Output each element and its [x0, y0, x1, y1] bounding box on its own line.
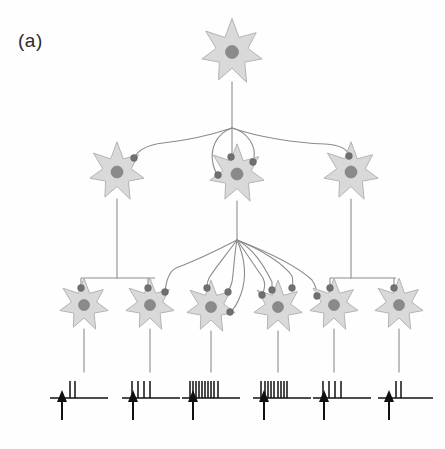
- nucleus-n3-3: [206, 302, 217, 313]
- neuron-n2-3: [324, 142, 378, 199]
- spike-train-n3-5: [313, 381, 371, 420]
- neural-circuit-figure: (a): [0, 0, 445, 449]
- axon-l1-to-n2-1: [134, 128, 232, 158]
- neuron-n1-1: [202, 18, 262, 82]
- synaptic-bouton-n2-2-2: [250, 159, 257, 166]
- axon-l2-to-n3-4-left: [237, 240, 265, 295]
- synaptic-bouton-n3-4-2: [289, 285, 296, 292]
- synaptic-bouton-n3-3-3: [227, 309, 234, 316]
- spike-train-n3-2: [122, 381, 180, 420]
- synaptic-bouton-n3-4-3: [259, 292, 266, 299]
- synaptic-bouton-n3-5-1: [327, 285, 334, 292]
- stimulus-arrow-head-n3-1: [57, 390, 67, 402]
- neuron-n3-6: [375, 278, 423, 329]
- synaptic-bouton-n3-5-2: [314, 293, 321, 300]
- spike-train-n3-6: [378, 381, 433, 420]
- nucleus-n3-4: [273, 302, 284, 313]
- stimulus-arrow-head-n3-6: [384, 390, 394, 402]
- spike-train-n3-1: [50, 381, 108, 420]
- circuit-canvas: [0, 0, 445, 449]
- synaptic-bouton-n3-3-2: [225, 289, 232, 296]
- nucleus-n2-1: [111, 166, 123, 178]
- synaptic-bouton-n3-6-1: [391, 285, 398, 292]
- nucleus-n3-6: [394, 300, 405, 311]
- neuron-n3-5: [310, 278, 358, 329]
- nucleus-n2-2: [231, 168, 243, 180]
- synaptic-bouton-n2-3-1: [346, 153, 353, 160]
- axon-l2-to-n3-4-right: [237, 240, 293, 288]
- nucleus-n2-3: [345, 166, 357, 178]
- axon-l2-to-n3-2: [165, 240, 237, 292]
- spike-raster-group: [50, 381, 433, 420]
- nucleus-n3-1: [79, 300, 90, 311]
- synaptic-bouton-n2-2-3: [215, 172, 222, 179]
- stimulus-arrow-head-n3-2: [128, 390, 138, 402]
- synaptic-bouton-n2-2-1: [228, 154, 235, 161]
- nucleus-n3-5: [329, 300, 340, 311]
- axon-l2-to-n3-3-lower: [230, 240, 245, 312]
- stimulus-arrow-head-n3-5: [319, 390, 329, 402]
- spike-train-n3-3: [182, 381, 240, 420]
- synaptic-bouton-n2-1-1: [131, 155, 138, 162]
- neuron-n3-1: [60, 278, 108, 329]
- nucleus-n3-2: [145, 300, 156, 311]
- synaptic-bouton-n3-4-1: [269, 287, 276, 294]
- neuron-group: [60, 18, 423, 331]
- synaptic-bouton-n3-2-2: [162, 289, 169, 296]
- spike-train-n3-4: [253, 381, 311, 420]
- axon-l2-to-n3-3-right: [228, 240, 237, 292]
- axon-group: [81, 82, 399, 372]
- neuron-n2-1: [90, 142, 144, 199]
- nucleus-n1-1: [226, 46, 239, 59]
- synaptic-bouton-n3-3-1: [204, 285, 211, 292]
- axon-l1-to-n2-3: [232, 128, 349, 156]
- synaptic-bouton-n3-2-1: [145, 285, 152, 292]
- neuron-n3-3: [187, 280, 235, 331]
- synaptic-bouton-n3-1-1: [78, 285, 85, 292]
